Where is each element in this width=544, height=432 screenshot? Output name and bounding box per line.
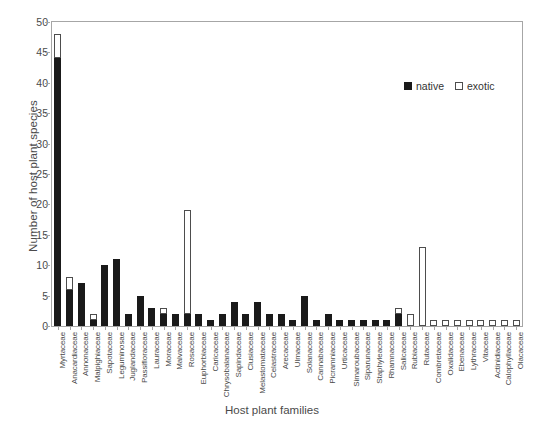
legend-label-native: native bbox=[416, 80, 444, 92]
bar-group[interactable] bbox=[463, 22, 475, 326]
bar-stack[interactable] bbox=[266, 314, 273, 326]
bar-segment-exotic[interactable] bbox=[184, 210, 191, 313]
x-axis-label-cell: Oxalidaceae bbox=[440, 332, 452, 404]
bar-stack[interactable] bbox=[101, 265, 108, 326]
x-axis-tick-mark bbox=[170, 326, 182, 331]
bar-segment-exotic[interactable] bbox=[419, 247, 426, 326]
bar-segment-native[interactable] bbox=[101, 265, 108, 326]
bar-segment-native[interactable] bbox=[395, 314, 402, 326]
bar-segment-native[interactable] bbox=[125, 314, 132, 326]
bar-segment-native[interactable] bbox=[160, 314, 167, 326]
bar-stack[interactable] bbox=[395, 308, 402, 326]
bar-stack[interactable] bbox=[113, 259, 120, 326]
bar-group[interactable] bbox=[510, 22, 522, 326]
bar-group[interactable] bbox=[217, 22, 229, 326]
bar-stack[interactable] bbox=[278, 314, 285, 326]
bar-stack[interactable] bbox=[254, 302, 261, 326]
bar-group[interactable] bbox=[228, 22, 240, 326]
bar-stack[interactable] bbox=[172, 314, 179, 326]
bar-stack[interactable] bbox=[125, 314, 132, 326]
bar-group[interactable] bbox=[158, 22, 170, 326]
bar-group[interactable] bbox=[311, 22, 323, 326]
bar-stack[interactable] bbox=[219, 314, 226, 326]
bar-group[interactable] bbox=[322, 22, 334, 326]
bar-group[interactable] bbox=[428, 22, 440, 326]
bar-group[interactable] bbox=[205, 22, 217, 326]
bar-group[interactable] bbox=[487, 22, 499, 326]
bar-segment-native[interactable] bbox=[78, 283, 85, 326]
bar-group[interactable] bbox=[146, 22, 158, 326]
bar-segment-native[interactable] bbox=[219, 314, 226, 326]
bar-group[interactable] bbox=[358, 22, 370, 326]
bar-segment-native[interactable] bbox=[113, 259, 120, 326]
bar-group[interactable] bbox=[193, 22, 205, 326]
bar-group[interactable] bbox=[299, 22, 311, 326]
bar-stack[interactable] bbox=[407, 314, 414, 326]
bar-stack[interactable] bbox=[195, 314, 202, 326]
bar-stack[interactable] bbox=[231, 302, 238, 326]
bar-group[interactable] bbox=[475, 22, 487, 326]
x-axis-label-cell: Picramniaceae bbox=[322, 332, 334, 404]
bar-group[interactable] bbox=[76, 22, 88, 326]
bar-group[interactable] bbox=[369, 22, 381, 326]
bar-stack[interactable] bbox=[78, 283, 85, 326]
bar-segment-native[interactable] bbox=[184, 314, 191, 326]
bar-segment-native[interactable] bbox=[231, 302, 238, 326]
bar-segment-exotic[interactable] bbox=[407, 314, 414, 326]
bar-group[interactable] bbox=[275, 22, 287, 326]
bar-segment-native[interactable] bbox=[266, 314, 273, 326]
bar-group[interactable] bbox=[252, 22, 264, 326]
y-axis-tick-mark bbox=[45, 296, 50, 297]
bar-group[interactable] bbox=[123, 22, 135, 326]
x-axis-tick-mark bbox=[452, 326, 464, 331]
bar-segment-native[interactable] bbox=[254, 302, 261, 326]
bar-group[interactable] bbox=[111, 22, 123, 326]
bar-group[interactable] bbox=[52, 22, 64, 326]
bar-stack[interactable] bbox=[54, 34, 61, 326]
bar-segment-native[interactable] bbox=[148, 308, 155, 326]
bar-segment-exotic[interactable] bbox=[54, 34, 61, 58]
bar-segment-native[interactable] bbox=[195, 314, 202, 326]
bar-group[interactable] bbox=[499, 22, 511, 326]
bar-stack[interactable] bbox=[325, 314, 332, 326]
bar-segment-native[interactable] bbox=[172, 314, 179, 326]
bar-group[interactable] bbox=[64, 22, 76, 326]
bar-group[interactable] bbox=[87, 22, 99, 326]
bar-group[interactable] bbox=[264, 22, 276, 326]
bar-segment-native[interactable] bbox=[301, 296, 308, 326]
bar-stack[interactable] bbox=[419, 247, 426, 326]
bar-stack[interactable] bbox=[160, 308, 167, 326]
bar-stack[interactable] bbox=[148, 308, 155, 326]
bar-stack[interactable] bbox=[184, 210, 191, 326]
bar-stack[interactable] bbox=[242, 314, 249, 326]
bar-group[interactable] bbox=[287, 22, 299, 326]
bar-group[interactable] bbox=[416, 22, 428, 326]
bar-group[interactable] bbox=[334, 22, 346, 326]
bar-segment-native[interactable] bbox=[54, 58, 61, 326]
bar-group[interactable] bbox=[440, 22, 452, 326]
x-axis-tick-mark bbox=[428, 326, 440, 331]
bars-layer bbox=[52, 22, 522, 326]
bar-stack[interactable] bbox=[301, 296, 308, 326]
y-axis-tick-label: 20 bbox=[8, 199, 48, 210]
bar-group[interactable] bbox=[393, 22, 405, 326]
bar-stack[interactable] bbox=[66, 277, 73, 326]
bar-group[interactable] bbox=[181, 22, 193, 326]
bar-group[interactable] bbox=[240, 22, 252, 326]
bar-group[interactable] bbox=[99, 22, 111, 326]
bar-group[interactable] bbox=[381, 22, 393, 326]
bar-group[interactable] bbox=[405, 22, 417, 326]
y-axis-tick-mark bbox=[45, 52, 50, 53]
bar-group[interactable] bbox=[346, 22, 358, 326]
bar-segment-native[interactable] bbox=[325, 314, 332, 326]
bar-group[interactable] bbox=[170, 22, 182, 326]
bar-stack[interactable] bbox=[137, 296, 144, 326]
bar-group[interactable] bbox=[134, 22, 146, 326]
bar-segment-native[interactable] bbox=[242, 314, 249, 326]
bar-segment-native[interactable] bbox=[66, 290, 73, 326]
bar-segment-native[interactable] bbox=[137, 296, 144, 326]
bar-segment-native[interactable] bbox=[278, 314, 285, 326]
bar-segment-exotic[interactable] bbox=[66, 277, 73, 289]
bar-group[interactable] bbox=[452, 22, 464, 326]
bar-stack[interactable] bbox=[90, 314, 97, 326]
